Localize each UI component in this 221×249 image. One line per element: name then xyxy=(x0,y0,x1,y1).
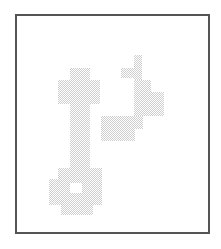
key-head-bar xyxy=(58,80,100,104)
key-hole xyxy=(70,183,82,193)
note-stem xyxy=(134,55,142,82)
note-flag-upper xyxy=(134,80,151,92)
note-flag-right xyxy=(134,92,164,116)
key-top-cap xyxy=(70,68,90,80)
note-head-lower xyxy=(101,128,135,141)
note-flag-left xyxy=(121,68,135,78)
key-shaft xyxy=(70,104,90,168)
key-bow-tail xyxy=(61,205,93,215)
